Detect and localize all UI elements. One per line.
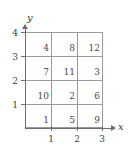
x-axis-label: x <box>118 121 124 132</box>
x-axis-line <box>25 128 113 129</box>
cell-value-c1r1: 1 <box>25 116 49 125</box>
cell-value-c2r4: 8 <box>51 44 75 53</box>
gridline-horizontal-y4 <box>25 32 103 33</box>
x-tick-mark-3 <box>102 126 103 131</box>
gridline-horizontal-y3 <box>25 56 103 57</box>
y-axis-arrow-icon <box>22 24 28 29</box>
x-tick-mark-1 <box>51 126 52 131</box>
y-tick-label-1: 1 <box>6 100 18 110</box>
cell-value-c3r4: 12 <box>76 44 100 53</box>
y-tick-label-3: 3 <box>6 52 18 62</box>
gridline-horizontal-y2 <box>25 80 103 81</box>
grid-figure: 4 8 12 7 11 3 10 2 6 1 5 9 y 4 3 2 1 x 1… <box>0 0 129 153</box>
cell-value-c2r3: 11 <box>51 68 75 77</box>
x-tick-label-3: 3 <box>96 134 108 144</box>
y-tick-mark-1 <box>21 104 26 105</box>
cell-value-c1r3: 7 <box>25 68 49 77</box>
y-tick-label-2: 2 <box>6 76 18 86</box>
cell-value-c2r2: 2 <box>51 92 75 101</box>
x-axis-arrow-icon <box>111 125 116 131</box>
cell-value-c1r4: 4 <box>25 44 49 53</box>
y-axis-label: y <box>27 12 33 23</box>
y-axis-line <box>25 28 26 128</box>
x-tick-mark-2 <box>77 126 78 131</box>
x-tick-label-1: 1 <box>45 134 57 144</box>
cell-value-c3r3: 3 <box>76 68 100 77</box>
y-tick-mark-4 <box>21 32 26 33</box>
cell-value-c1r2: 10 <box>25 92 49 101</box>
gridline-horizontal-y1 <box>25 104 103 105</box>
y-tick-mark-3 <box>21 56 26 57</box>
y-tick-label-4: 4 <box>6 28 18 38</box>
x-tick-label-2: 2 <box>71 134 83 144</box>
cell-value-c3r2: 6 <box>76 92 100 101</box>
y-tick-mark-2 <box>21 80 26 81</box>
cell-value-c3r1: 9 <box>76 116 100 125</box>
cell-value-c2r1: 5 <box>51 116 75 125</box>
grid-area: 4 8 12 7 11 3 10 2 6 1 5 9 <box>25 32 103 128</box>
